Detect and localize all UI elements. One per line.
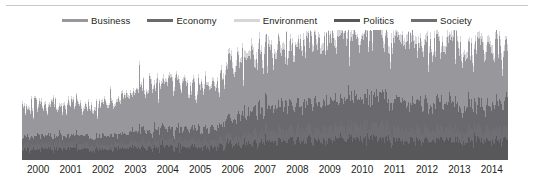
legend-swatch-icon <box>411 19 437 22</box>
legend-item-politics[interactable]: Politics <box>334 15 394 26</box>
x-axis-tick-label: 2001 <box>59 163 81 177</box>
top-divider <box>6 5 528 6</box>
x-axis-tick-label: 2012 <box>416 163 438 177</box>
x-axis-tick-label: 2000 <box>27 163 49 177</box>
legend-swatch-icon <box>147 19 173 22</box>
legend-item-label: Economy <box>176 15 216 26</box>
x-axis-tick-label: 2009 <box>319 163 341 177</box>
legend-item-label: Environment <box>263 15 317 26</box>
x-axis-tick-label: 2010 <box>351 163 373 177</box>
legend-item-label: Politics <box>363 15 394 26</box>
x-axis-tick-label: 2004 <box>157 163 179 177</box>
x-axis-tick-label: 2008 <box>286 163 308 177</box>
stacked-area-chart: BusinessEconomyEnvironmentPoliticsSociet… <box>0 0 534 192</box>
chart-legend: BusinessEconomyEnvironmentPoliticsSociet… <box>0 13 534 27</box>
plot-area <box>0 28 534 162</box>
x-axis-tick-label: 2014 <box>481 163 503 177</box>
legend-item-label: Business <box>91 15 130 26</box>
legend-item-society[interactable]: Society <box>411 15 472 26</box>
x-axis-tick-label: 2007 <box>254 163 276 177</box>
x-axis-tick-label: 2005 <box>189 163 211 177</box>
legend-item-environment[interactable]: Environment <box>234 15 317 26</box>
legend-item-label: Society <box>440 15 472 26</box>
x-axis-tick-label: 2003 <box>124 163 146 177</box>
x-axis-tick-label: 2011 <box>384 163 406 177</box>
x-axis: 2000200120022003200420052006200720082009… <box>0 163 534 179</box>
x-axis-tick-label: 2002 <box>92 163 114 177</box>
legend-swatch-icon <box>334 19 360 22</box>
x-axis-tick-label: 2006 <box>221 163 243 177</box>
legend-item-business[interactable]: Business <box>62 15 130 26</box>
legend-swatch-icon <box>62 19 88 22</box>
plot-svg <box>0 28 534 162</box>
legend-swatch-icon <box>234 19 260 22</box>
x-axis-tick-label: 2013 <box>448 163 470 177</box>
legend-item-economy[interactable]: Economy <box>147 15 216 26</box>
